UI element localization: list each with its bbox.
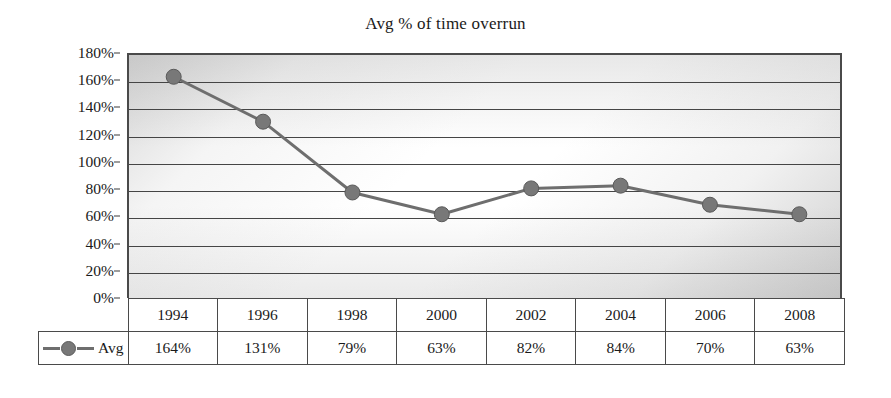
y-axis-tick-label: 100% bbox=[78, 153, 114, 171]
table-cell-value: 63% bbox=[397, 332, 487, 365]
y-axis-tick-mark bbox=[114, 216, 120, 217]
table-cell-value: 79% bbox=[307, 332, 397, 365]
plot-area bbox=[127, 53, 842, 298]
y-axis-tick-label: 140% bbox=[78, 98, 114, 116]
table-row-categories: 19941996199820002002200420062008 bbox=[39, 299, 845, 332]
y-axis-tick-label: 120% bbox=[78, 126, 114, 144]
data-table: 19941996199820002002200420062008 Avg 164… bbox=[38, 298, 845, 365]
data-point-marker[interactable] bbox=[792, 207, 807, 222]
y-axis-tick-label: 40% bbox=[86, 235, 114, 253]
data-point-marker[interactable] bbox=[524, 181, 539, 196]
table-cell-category: 2000 bbox=[397, 299, 487, 332]
y-axis-tick-mark bbox=[114, 298, 120, 299]
table-cell-value: 63% bbox=[755, 332, 845, 365]
data-point-marker[interactable] bbox=[613, 178, 628, 193]
y-axis-tick-mark bbox=[114, 243, 120, 244]
table-cell-value: 70% bbox=[665, 332, 755, 365]
y-axis-tick-label: 160% bbox=[78, 71, 114, 89]
table-cell-category: 2006 bbox=[665, 299, 755, 332]
y-axis-tick-label: 180% bbox=[78, 44, 114, 62]
chart-title: Avg % of time overrun bbox=[0, 14, 891, 34]
chart-figure: Avg % of time overrun 20%40%60%80%100%12… bbox=[0, 0, 891, 398]
table-cell-category: 1994 bbox=[128, 299, 218, 332]
y-axis-tick-mark bbox=[114, 53, 120, 54]
table-cell-category: 2002 bbox=[486, 299, 576, 332]
y-axis-tick-label: 0% bbox=[56, 289, 120, 307]
table-cell-value: 84% bbox=[576, 332, 666, 365]
legend-key-avg[interactable]: Avg bbox=[39, 332, 129, 365]
table-cell-category: 2004 bbox=[576, 299, 666, 332]
y-axis-tick-mark bbox=[114, 134, 120, 135]
table-cell-category: 1996 bbox=[218, 299, 308, 332]
y-axis: 20%40%60%80%100%120%140%160%180% bbox=[56, 53, 120, 298]
legend-marker-circle-icon bbox=[61, 341, 76, 356]
y-axis-tick-label: 80% bbox=[86, 180, 114, 198]
table-cell-value: 164% bbox=[128, 332, 218, 365]
legend-series-label: Avg bbox=[98, 339, 124, 357]
y-axis-tick-mark bbox=[114, 107, 120, 108]
data-point-marker[interactable] bbox=[702, 197, 717, 212]
y-axis-tick-mark bbox=[114, 189, 120, 190]
legend-line-left-icon bbox=[43, 347, 60, 350]
y-axis-tick-mark bbox=[114, 161, 120, 162]
table-cell-category: 1998 bbox=[307, 299, 397, 332]
y-axis-tick-mark bbox=[114, 80, 120, 81]
data-point-marker[interactable] bbox=[166, 69, 181, 84]
table-cell-value: 131% bbox=[218, 332, 308, 365]
data-point-marker[interactable] bbox=[256, 114, 271, 129]
series-line-avg bbox=[174, 77, 800, 214]
y-axis-tick-label: 20% bbox=[86, 262, 114, 280]
table-cell-category: 2008 bbox=[755, 299, 845, 332]
data-point-marker[interactable] bbox=[345, 185, 360, 200]
y-axis-tick-label: 60% bbox=[86, 207, 114, 225]
y-axis-tick-mark bbox=[114, 270, 120, 271]
legend-line-right-icon bbox=[77, 347, 94, 350]
series-avg-line bbox=[129, 55, 844, 300]
table-row-values: Avg 164%131%79%63%82%84%70%63% bbox=[39, 332, 845, 365]
table-cell-value: 82% bbox=[486, 332, 576, 365]
data-point-marker[interactable] bbox=[434, 207, 449, 222]
